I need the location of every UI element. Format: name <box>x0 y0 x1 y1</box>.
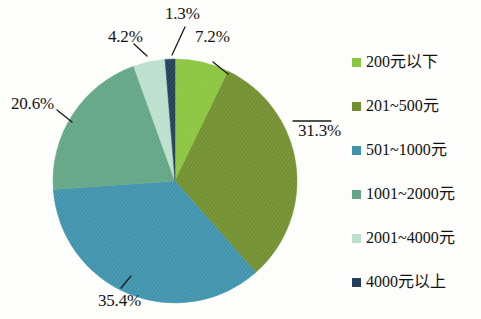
pie-chart-figure: 7.2% 31.3% 35.4% 20.6% 4.2% 1.3% 200元以下 … <box>0 0 481 319</box>
legend-swatch-icon-4 <box>352 234 361 243</box>
legend-swatch-icon-1 <box>352 102 361 111</box>
legend-item-1[interactable]: 201~500元 <box>352 96 439 116</box>
leader-line-20-6 <box>57 110 72 122</box>
data-label-2001-4000: 4.2% <box>108 28 143 45</box>
legend-label-2: 501~1000元 <box>366 142 447 158</box>
pie-texture-overlay <box>53 59 297 303</box>
legend-label-1: 201~500元 <box>366 98 439 114</box>
data-label-201-500: 31.3% <box>298 122 341 139</box>
legend-swatch-icon-2 <box>352 146 361 155</box>
data-label-501-1000: 35.4% <box>98 292 141 309</box>
data-label-1001-2000: 20.6% <box>11 95 54 112</box>
legend-item-4[interactable]: 2001~4000元 <box>352 228 455 248</box>
legend-item-2[interactable]: 501~1000元 <box>352 140 447 160</box>
legend-item-0[interactable]: 200元以下 <box>352 52 438 72</box>
data-label-4000-yuan-yishang: 1.3% <box>165 5 200 22</box>
legend-label-3: 1001~2000元 <box>366 186 455 202</box>
legend-item-5[interactable]: 4000元以上 <box>352 272 446 292</box>
chart-legend: 200元以下 201~500元 501~1000元 1001~2000元 200… <box>352 52 481 302</box>
pie-plot-area: 7.2% 31.3% 35.4% 20.6% 4.2% 1.3% <box>0 0 340 319</box>
legend-swatch-icon-5 <box>352 278 361 287</box>
legend-item-3[interactable]: 1001~2000元 <box>352 184 455 204</box>
leader-line-1-3 <box>172 27 185 55</box>
legend-label-5: 4000元以上 <box>366 274 446 290</box>
legend-label-0: 200元以下 <box>366 54 438 70</box>
data-label-200-yuan-xiaxia: 7.2% <box>195 28 230 45</box>
legend-label-4: 2001~4000元 <box>366 230 455 246</box>
pie-svg <box>0 0 340 319</box>
legend-swatch-icon-0 <box>352 58 361 67</box>
legend-swatch-icon-3 <box>352 190 361 199</box>
